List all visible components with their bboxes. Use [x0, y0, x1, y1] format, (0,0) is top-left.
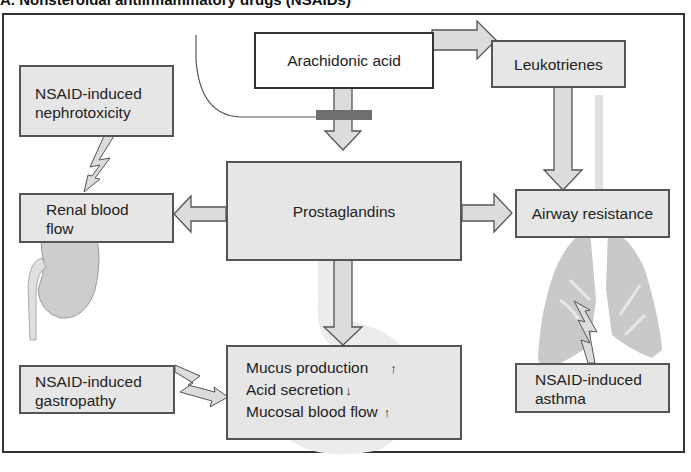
node-arachidonic-acid: Arachidonic acid — [254, 32, 434, 89]
up-arrow-icon: ↑ — [390, 361, 397, 376]
arrow-pg-to-airway — [462, 194, 512, 232]
inhibitor-bar — [316, 110, 372, 120]
node-nsaid-gastropathy: NSAID-induced gastropathy — [19, 365, 175, 414]
down-arrow-icon: ↓ — [345, 383, 352, 398]
node-renal-blood-flow: Renal blood flow — [19, 193, 174, 243]
lightning-gastro — [175, 365, 228, 407]
node-gastric-effects: Mucus production↑ Acid secretion↓ Mucosa… — [226, 345, 462, 440]
arrow-pg-to-renal — [174, 196, 226, 232]
arrow-aa-to-lt — [432, 21, 496, 59]
lightning-nephro — [84, 136, 114, 192]
effect-mucus-production: Mucus production↑ — [246, 357, 460, 379]
node-airway-resistance: Airway resistance — [515, 189, 670, 238]
node-nsaid-asthma: NSAID-induced asthma — [515, 363, 670, 413]
effect-mucosal-blood-flow: Mucosal blood flow↑ — [246, 401, 460, 423]
node-nsaid-nephrotoxicity: NSAID-induced nephrotoxicity — [19, 65, 174, 137]
node-leukotrienes: Leukotrienes — [491, 40, 626, 88]
effect-acid-secretion: Acid secretion↓ — [246, 379, 460, 401]
up-arrow-icon: ↑ — [384, 405, 391, 420]
node-prostaglandins: Prostaglandins — [226, 161, 462, 261]
